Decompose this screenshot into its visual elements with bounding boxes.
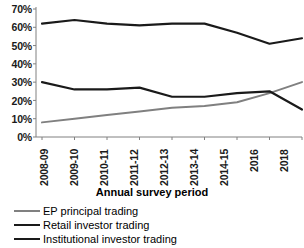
xtick-label-3: 2011-12 [128, 149, 140, 186]
xtick-label-4: 2012-13 [158, 149, 170, 186]
legend-label-ep-principal-trading: EP principal trading [43, 205, 138, 218]
legend-label-retail-investor-trading: Retail investor trading [43, 219, 149, 232]
legend-label-institutional-investor-trading: Institutional investor trading [43, 233, 177, 246]
xtick-label-7: 2016 [248, 149, 260, 172]
xtick-label-5: 2013-14 [188, 149, 200, 186]
x-axis-title: Annual survey period [0, 186, 304, 198]
xtick-label-6: 2014-15 [218, 149, 230, 186]
legend-item-ep-principal-trading: EP principal trading [14, 204, 304, 218]
legend-swatch-retail-investor-trading [14, 224, 40, 226]
legend: EP principal trading Retail investor tra… [14, 204, 304, 246]
plot-area [0, 0, 304, 150]
xtick-label-0: 2008-09 [38, 149, 50, 186]
line-chart: 70% 60% 50% 40% 30% 20% 10% 0% 2008-09 2… [0, 0, 304, 248]
legend-swatch-ep-principal-trading [14, 210, 40, 212]
xtick-label-2: 2010-11 [98, 149, 110, 186]
legend-item-institutional-investor-trading: Institutional investor trading [14, 232, 304, 246]
xtick-label-1: 2009-10 [68, 149, 80, 186]
legend-swatch-institutional-investor-trading [14, 238, 40, 240]
series-line-institutional-investor-trading [42, 20, 302, 44]
legend-item-retail-investor-trading: Retail investor trading [14, 218, 304, 232]
xtick-label-8: 2018 [278, 149, 290, 172]
series-line-ep-principal-trading [42, 82, 302, 122]
